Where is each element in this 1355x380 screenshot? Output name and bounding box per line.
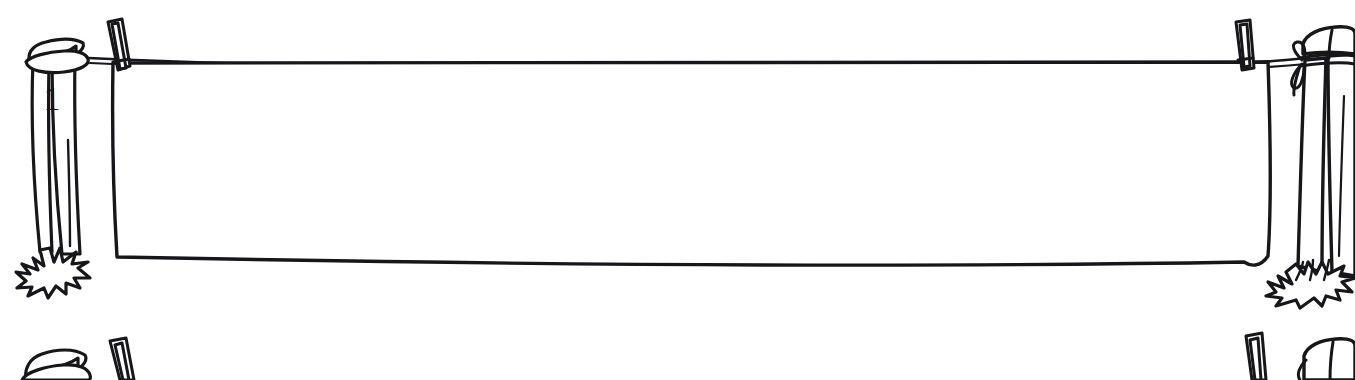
blank-hanging-sheet: [113, 62, 1271, 265]
clothespin-right-spring: [1238, 58, 1253, 60]
post-number-label: 1: [44, 80, 61, 117]
post-right-body-a: [1298, 58, 1326, 272]
clothesline-worksheet: 1: [0, 0, 1355, 380]
illustration-canvas: 1: [0, 0, 1355, 380]
wooden-post-right: [1292, 27, 1355, 276]
